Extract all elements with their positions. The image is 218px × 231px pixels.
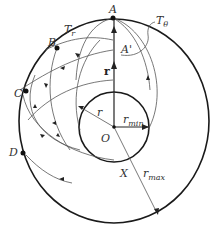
trajectory-arc <box>20 50 113 90</box>
arc-arrow <box>44 83 48 88</box>
label-r-max: rmax <box>143 167 166 182</box>
label-r-vector: r <box>104 65 110 78</box>
label-a: A <box>108 3 117 16</box>
trajectory-arc <box>113 18 157 130</box>
point-o <box>112 125 116 129</box>
vector-arrow <box>111 26 117 33</box>
label-t-theta: Tθ <box>156 14 168 29</box>
label-a-prime: A' <box>120 43 132 56</box>
vector-arrow <box>111 61 117 69</box>
arc-arrow <box>40 134 45 138</box>
point-c <box>24 89 29 94</box>
trajectory-arc <box>50 48 70 150</box>
label-c: C <box>14 87 23 100</box>
point-a <box>111 16 116 21</box>
point-d <box>21 151 26 156</box>
trajectory-arc <box>23 95 114 160</box>
label-b: B <box>47 36 56 49</box>
arc-arrow <box>52 121 56 125</box>
label-d: D <box>8 146 18 159</box>
arc-arrow <box>56 133 60 137</box>
arc-arrow <box>146 75 150 80</box>
label-r-min: rmin <box>123 113 144 128</box>
label-o: O <box>101 132 110 145</box>
trajectory-arc <box>26 155 72 183</box>
label-x: X <box>119 167 129 180</box>
label-t-r: Tr <box>64 23 76 38</box>
arc-arrow <box>33 104 37 108</box>
trajectory-diagram: A A' B C D O X Tr Tθ r r rmin rmax <box>0 0 218 231</box>
label-r: r <box>97 106 103 119</box>
